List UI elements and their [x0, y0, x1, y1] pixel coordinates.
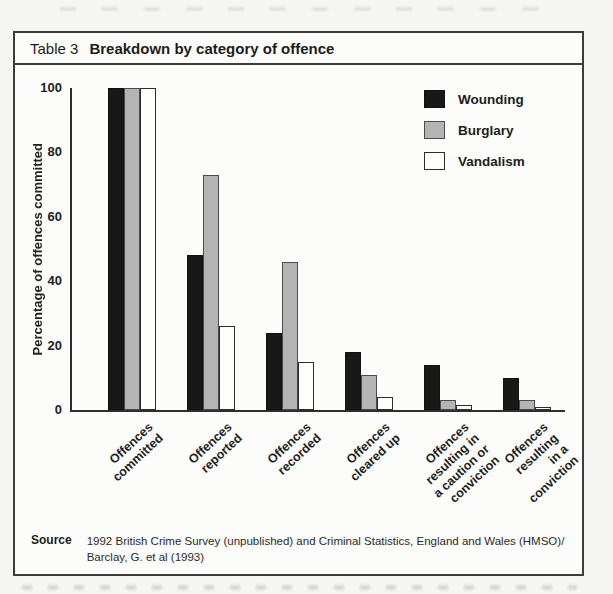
- x-category-label: Offences resulting in a conviction: [495, 420, 582, 507]
- bar-vandalism: [535, 407, 551, 410]
- x-category-label: Offences cleared up: [337, 420, 403, 485]
- scan-artifact-top: [60, 7, 540, 11]
- y-tick-label: 80: [15, 143, 62, 161]
- x-category-label: Offences committed: [100, 420, 167, 485]
- bar-vandalism: [456, 405, 472, 410]
- source-label: Source: [31, 533, 72, 565]
- y-axis-line: [70, 88, 72, 412]
- x-category-label: Offences reported: [186, 420, 246, 478]
- y-tick-label: 20: [15, 337, 62, 355]
- bar-vandalism: [377, 397, 393, 410]
- legend-item-vandalism: Vandalism: [424, 152, 525, 170]
- bar-burglary: [440, 400, 456, 410]
- bar-wounding: [345, 352, 361, 410]
- y-tick-label: 40: [15, 272, 62, 290]
- legend-label-vandalism: Vandalism: [458, 154, 525, 169]
- bar-wounding: [424, 365, 440, 410]
- source-line-1: 1992 British Crime Survey (unpublished) …: [87, 533, 565, 549]
- bar-group: [345, 352, 393, 410]
- bar-wounding: [108, 88, 124, 410]
- table-frame: Table 3 Breakdown by category of offence…: [13, 31, 584, 576]
- source-row: Source 1992 British Crime Survey (unpubl…: [31, 533, 566, 565]
- legend-label-burglary: Burglary: [458, 123, 514, 138]
- x-category-label: Offences resulting in a caution or convi…: [387, 420, 503, 534]
- scan-artifact-bottom: [22, 585, 577, 590]
- bar-group: [266, 262, 314, 410]
- bar-burglary: [519, 400, 535, 410]
- bar-wounding: [187, 255, 203, 410]
- legend-label-wounding: Wounding: [458, 92, 524, 107]
- bar-burglary: [282, 262, 298, 410]
- chart-title: Breakdown by category of offence: [89, 40, 334, 57]
- legend-swatch-vandalism: [424, 152, 445, 170]
- y-tick-label: 60: [15, 208, 62, 226]
- table-number-label: Table 3: [30, 40, 78, 57]
- x-axis-line: [70, 410, 565, 412]
- y-axis-ticks: 020406080100: [15, 88, 62, 410]
- bar-group: [108, 88, 156, 410]
- bar-wounding: [266, 333, 282, 410]
- y-tick-label: 0: [15, 401, 62, 419]
- legend-item-burglary: Burglary: [424, 121, 525, 139]
- legend-swatch-burglary: [424, 121, 445, 139]
- bar-vandalism: [219, 326, 235, 410]
- bar-burglary: [203, 175, 219, 410]
- legend-swatch-wounding: [424, 90, 445, 108]
- bar-vandalism: [298, 362, 314, 410]
- title-bar: Table 3 Breakdown by category of offence: [15, 33, 582, 65]
- source-line-2: Barclay, G. et al (1993): [87, 549, 565, 565]
- bar-group: [424, 365, 472, 410]
- bar-burglary: [124, 88, 140, 410]
- bar-group: [187, 175, 235, 410]
- bar-wounding: [503, 378, 519, 410]
- bar-group: [503, 378, 551, 410]
- bar-vandalism: [140, 88, 156, 410]
- legend: Wounding Burglary Vandalism: [424, 90, 525, 183]
- x-category-label: Offences recorded: [265, 420, 325, 478]
- bar-burglary: [361, 375, 377, 410]
- legend-item-wounding: Wounding: [424, 90, 525, 108]
- y-tick-label: 100: [15, 79, 62, 97]
- source-text: 1992 British Crime Survey (unpublished) …: [87, 533, 565, 565]
